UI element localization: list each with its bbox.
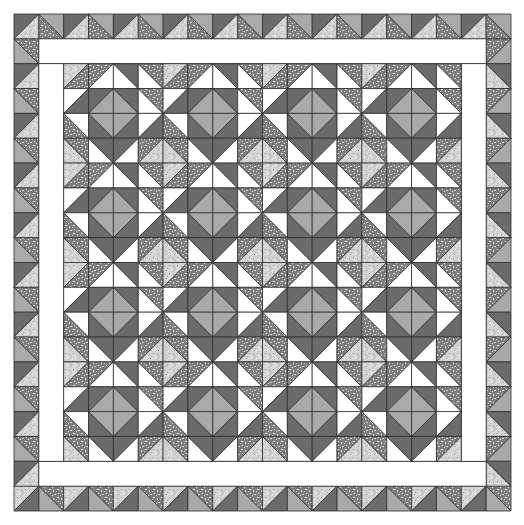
inner-border-top <box>39 39 486 64</box>
inner-border-bottom <box>39 461 486 486</box>
quilt-image <box>0 0 524 525</box>
quilt-pattern <box>0 0 524 525</box>
quilt-cells <box>14 14 511 511</box>
inner-border-left <box>39 64 64 462</box>
inner-border-right <box>461 64 486 462</box>
